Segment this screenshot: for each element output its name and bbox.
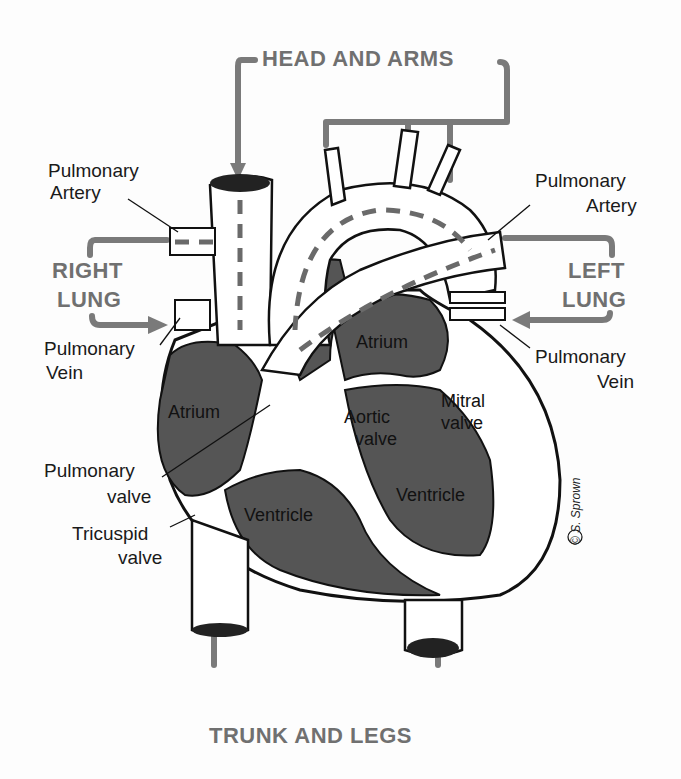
right-lung-label-line1: RIGHT	[52, 258, 123, 284]
left-lung-label-line1: LEFT	[568, 258, 625, 284]
trunk-and-legs-label: TRUNK AND LEGS	[209, 723, 412, 749]
pulmonary-artery-left-label-2: Artery	[50, 182, 101, 204]
pulmonary-vein-left-label-2: Vein	[46, 362, 83, 384]
pulmonary-artery-right-label-1: Pulmonary	[535, 170, 626, 192]
left-lung-label-line2: LUNG	[562, 287, 626, 313]
right-atrium-label: Atrium	[168, 402, 220, 423]
tricuspid-valve-label-2: valve	[118, 547, 162, 569]
tricuspid-valve-label-1: Tricuspid	[72, 523, 148, 545]
mitral-valve-label-1: Mitral	[441, 391, 485, 412]
left-ventricle-label: Ventricle	[396, 485, 465, 506]
pulmonary-artery-left-label-1: Pulmonary	[48, 160, 139, 182]
aortic-valve-label-2: valve	[355, 429, 397, 450]
heart-illustration	[0, 0, 681, 779]
mitral-valve-label-2: valve	[441, 413, 483, 434]
pulmonary-valve-label-1: Pulmonary	[44, 460, 135, 482]
left-atrium-label: Atrium	[356, 332, 408, 353]
head-and-arms-label: HEAD AND ARMS	[262, 46, 454, 72]
pulmonary-vein-right-label-2: Vein	[597, 371, 634, 393]
right-ventricle-label: Ventricle	[244, 505, 313, 526]
pulmonary-artery-right-label-2: Artery	[586, 195, 637, 217]
pulmonary-valve-label-2: valve	[107, 486, 151, 508]
heart-diagram: HEAD AND ARMS RIGHT LUNG LEFT LUNG TRUNK…	[0, 0, 681, 779]
aortic-valve-label-1: Aortic	[344, 407, 390, 428]
artist-signature: © S. Sprown	[569, 477, 583, 545]
right-lung-label-line2: LUNG	[57, 287, 121, 313]
pulmonary-vein-left-label-1: Pulmonary	[44, 338, 135, 360]
pulmonary-vein-right-label-1: Pulmonary	[535, 346, 626, 368]
